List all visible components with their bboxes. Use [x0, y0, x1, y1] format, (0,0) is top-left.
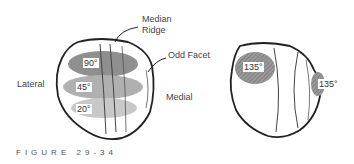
label-lateral: Lateral [17, 79, 45, 89]
angle-label-135-lateral: 135° [243, 62, 264, 72]
patella-diagram [0, 0, 354, 164]
angle-label-45: 45° [76, 82, 92, 92]
label-medial: Medial [166, 92, 193, 102]
left-patella [57, 27, 166, 139]
angle-label-20: 20° [76, 104, 92, 114]
figure-caption: FIGURE 29-34 [16, 148, 117, 157]
contact-zone-90 [68, 51, 138, 77]
label-odd-facet: Odd Facet [168, 50, 210, 60]
right-patella [231, 43, 325, 137]
label-median: Median [142, 14, 172, 24]
label-ridge: Ridge [142, 25, 166, 35]
angle-label-135-odd: 135° [318, 79, 339, 89]
angle-label-90: 90° [83, 58, 99, 68]
